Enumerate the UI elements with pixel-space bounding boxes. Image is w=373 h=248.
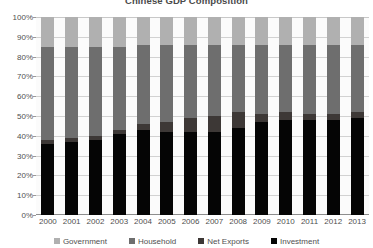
x-axis-label: 2012 — [321, 217, 345, 226]
y-axis-label: 60% — [0, 92, 33, 101]
bar-column[interactable] — [298, 17, 322, 215]
bar-segment-investment[interactable] — [160, 132, 173, 215]
stacked-bar[interactable] — [351, 17, 364, 215]
bar-segment-household[interactable] — [208, 45, 221, 116]
bar-segment-household[interactable] — [184, 45, 197, 118]
bar-segment-household[interactable] — [65, 47, 78, 138]
bar-segment-net-exports[interactable] — [208, 116, 221, 132]
x-axis-label: 2003 — [107, 217, 131, 226]
bar-column[interactable] — [131, 17, 155, 215]
bar-segment-government[interactable] — [137, 17, 150, 45]
bar-segment-investment[interactable] — [232, 128, 245, 215]
bar-segment-government[interactable] — [351, 17, 364, 45]
bar-segment-household[interactable] — [113, 47, 126, 130]
bar-segment-household[interactable] — [137, 45, 150, 124]
bar-segment-investment[interactable] — [184, 132, 197, 215]
bar-segment-net-exports[interactable] — [184, 118, 197, 132]
stacked-bar[interactable] — [208, 17, 221, 215]
y-axis-label: 0% — [0, 211, 33, 220]
x-axis-label: 2007 — [202, 217, 226, 226]
legend-swatch-household — [129, 238, 135, 244]
x-axis-label: 2004 — [131, 217, 155, 226]
bar-segment-government[interactable] — [113, 17, 126, 47]
bar-segment-net-exports[interactable] — [255, 114, 268, 122]
legend-item[interactable]: Household — [129, 237, 176, 246]
bar-segment-government[interactable] — [303, 17, 316, 45]
bar-column[interactable] — [250, 17, 274, 215]
legend-label: Government — [63, 237, 107, 246]
bar-column[interactable] — [274, 17, 298, 215]
chart-container: Chinese GDP Composition 0%10%20%30%40%50… — [0, 0, 373, 248]
bar-column[interactable] — [60, 17, 84, 215]
legend-label: Net Exports — [207, 237, 249, 246]
bar-segment-investment[interactable] — [351, 118, 364, 215]
bar-segment-investment[interactable] — [279, 120, 292, 215]
legend-label: Investment — [280, 237, 319, 246]
bar-segment-investment[interactable] — [327, 120, 340, 215]
bar-segment-government[interactable] — [279, 17, 292, 45]
stacked-bar[interactable] — [65, 17, 78, 215]
y-axis-label: 20% — [0, 171, 33, 180]
bar-segment-government[interactable] — [89, 17, 102, 47]
x-axis-label: 2000 — [36, 217, 60, 226]
bar-segment-household[interactable] — [351, 45, 364, 112]
bar-segment-investment[interactable] — [41, 144, 54, 215]
bar-segment-household[interactable] — [89, 47, 102, 136]
legend-item[interactable]: Investment — [271, 237, 319, 246]
bar-segment-government[interactable] — [255, 17, 268, 45]
bar-column[interactable] — [179, 17, 203, 215]
bar-segment-investment[interactable] — [65, 142, 78, 215]
stacked-bar[interactable] — [184, 17, 197, 215]
bar-segment-government[interactable] — [232, 17, 245, 45]
legend-item[interactable]: Government — [54, 237, 107, 246]
bar-segment-investment[interactable] — [89, 140, 102, 215]
bar-segment-net-exports[interactable] — [160, 122, 173, 132]
y-axis-label: 10% — [0, 191, 33, 200]
stacked-bar[interactable] — [255, 17, 268, 215]
bar-column[interactable] — [345, 17, 369, 215]
bar-column[interactable] — [107, 17, 131, 215]
bar-column[interactable] — [202, 17, 226, 215]
bar-segment-household[interactable] — [232, 45, 245, 112]
stacked-bar[interactable] — [160, 17, 173, 215]
bar-segment-net-exports[interactable] — [232, 112, 245, 128]
bar-column[interactable] — [321, 17, 345, 215]
bar-column[interactable] — [155, 17, 179, 215]
bar-segment-household[interactable] — [327, 45, 340, 114]
stacked-bar[interactable] — [303, 17, 316, 215]
bar-segment-investment[interactable] — [303, 120, 316, 215]
bar-segment-investment[interactable] — [255, 122, 268, 215]
stacked-bar[interactable] — [279, 17, 292, 215]
stacked-bar[interactable] — [327, 17, 340, 215]
stacked-bar[interactable] — [137, 17, 150, 215]
bar-segment-government[interactable] — [160, 17, 173, 45]
stacked-bar[interactable] — [41, 17, 54, 215]
bar-segment-household[interactable] — [303, 45, 316, 114]
bar-segment-government[interactable] — [184, 17, 197, 45]
bar-segment-government[interactable] — [208, 17, 221, 45]
stacked-bar[interactable] — [89, 17, 102, 215]
x-axis-label: 2001 — [60, 217, 84, 226]
bar-segment-household[interactable] — [41, 47, 54, 140]
bar-segment-investment[interactable] — [113, 134, 126, 215]
y-axis-label: 70% — [0, 72, 33, 81]
bar-column[interactable] — [36, 17, 60, 215]
bar-segment-household[interactable] — [279, 45, 292, 112]
bar-segment-investment[interactable] — [208, 132, 221, 215]
y-axis-label: 30% — [0, 151, 33, 160]
bar-segment-household[interactable] — [255, 45, 268, 114]
x-axis-label: 2009 — [250, 217, 274, 226]
bar-segment-household[interactable] — [160, 45, 173, 122]
bar-segment-government[interactable] — [327, 17, 340, 45]
legend-item[interactable]: Net Exports — [198, 237, 249, 246]
bar-segment-government[interactable] — [65, 17, 78, 47]
bar-column[interactable] — [226, 17, 250, 215]
legend-swatch-government — [54, 238, 60, 244]
bar-column[interactable] — [84, 17, 108, 215]
bar-segment-government[interactable] — [41, 17, 54, 47]
bar-segment-net-exports[interactable] — [279, 112, 292, 120]
y-axis: 0%10%20%30%40%50%60%70%80%90%100% — [0, 17, 33, 215]
stacked-bar[interactable] — [113, 17, 126, 215]
stacked-bar[interactable] — [232, 17, 245, 215]
bar-segment-investment[interactable] — [137, 130, 150, 215]
